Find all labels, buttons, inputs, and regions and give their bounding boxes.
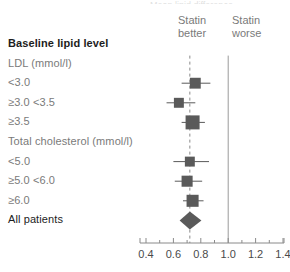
point-estimate-box bbox=[185, 157, 195, 167]
x-axis-tick-label: 1.2 bbox=[248, 248, 263, 260]
point-estimate-box bbox=[187, 195, 199, 207]
row-label: ≥3.5 bbox=[8, 115, 30, 127]
forest-row-marker bbox=[167, 98, 196, 108]
summary-label: All patients bbox=[8, 213, 63, 225]
forest-row-marker bbox=[173, 157, 209, 167]
row-label: <5.0 bbox=[8, 155, 30, 167]
point-estimate-box bbox=[174, 98, 184, 108]
row-label: ≥5.0 <6.0 bbox=[8, 174, 55, 186]
statin-better-line1: Statin bbox=[178, 14, 206, 27]
statin-worse-line2: worse bbox=[232, 27, 261, 40]
x-axis-tick-label: 1.4 bbox=[275, 248, 290, 260]
row-label: ≥6.0 bbox=[8, 194, 30, 206]
x-axis-tick-label: 0.8 bbox=[193, 248, 208, 260]
row-label: ≥3.0 <3.5 bbox=[8, 96, 55, 108]
statin-worse-header: Statinworse bbox=[232, 14, 261, 40]
point-estimate-box bbox=[186, 115, 200, 129]
statin-better-line2: better bbox=[178, 27, 206, 40]
forest-row-marker bbox=[183, 195, 204, 207]
forest-row-marker bbox=[182, 78, 211, 89]
statin-better-header: Statinbetter bbox=[178, 14, 206, 40]
point-estimate-box bbox=[182, 176, 193, 187]
x-axis-tick-label: 1.0 bbox=[221, 248, 236, 260]
subgroup-heading: Total cholesterol (mmol/l) bbox=[8, 135, 133, 147]
forest-row-marker bbox=[182, 115, 205, 129]
x-axis-tick-label: 0.6 bbox=[166, 248, 181, 260]
group-heading: Baseline lipid level bbox=[8, 37, 108, 49]
x-axis-tick-label: 0.4 bbox=[138, 248, 153, 260]
forest-row-marker bbox=[175, 176, 202, 187]
point-estimate-box bbox=[190, 78, 201, 89]
subgroup-heading: LDL (mmol/l) bbox=[8, 57, 72, 69]
statin-worse-line1: Statin bbox=[232, 14, 261, 27]
summary-diamond bbox=[180, 211, 202, 229]
row-label: <3.0 bbox=[8, 76, 30, 88]
